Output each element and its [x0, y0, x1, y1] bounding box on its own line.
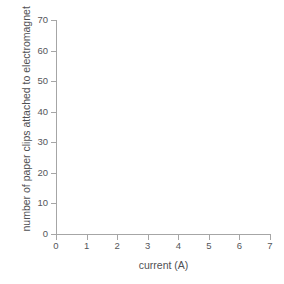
x-tick-label: 0 — [46, 241, 66, 251]
x-axis-title: current (A) — [56, 259, 271, 271]
y-tick-mark — [51, 173, 56, 174]
plot-area — [57, 20, 271, 234]
x-tick-label: 2 — [107, 241, 127, 251]
x-tick-label: 7 — [260, 241, 280, 251]
chart-figure: 706050403020100 01234567 current (A) num… — [0, 0, 284, 284]
x-tick-label: 6 — [229, 241, 249, 251]
y-tick-mark — [51, 142, 56, 143]
y-tick-mark — [51, 51, 56, 52]
y-tick-mark — [51, 112, 56, 113]
y-tick-mark — [51, 203, 56, 204]
x-tick-label: 3 — [138, 241, 158, 251]
x-tick-label: 5 — [199, 241, 219, 251]
y-axis-title: number of paper clips attached to electr… — [20, 7, 32, 232]
y-tick-mark — [51, 20, 56, 21]
y-axis-line — [56, 20, 57, 235]
y-tick-mark — [51, 81, 56, 82]
x-tick-label: 4 — [168, 241, 188, 251]
x-tick-label: 1 — [77, 241, 97, 251]
